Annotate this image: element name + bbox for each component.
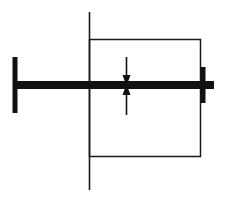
- drawing-background: [0, 0, 225, 201]
- diagram-svg: [0, 0, 225, 201]
- technical-drawing-canvas: [0, 0, 225, 201]
